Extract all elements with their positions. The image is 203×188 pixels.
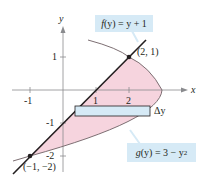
label-g-rest: = 3 − y	[152, 147, 183, 158]
point-neg1-neg2	[28, 154, 33, 159]
x-tick-2: 2	[126, 96, 131, 106]
y-tick-1: 1	[52, 52, 57, 62]
leader-f	[132, 31, 138, 42]
y-tick-neg2: -2	[46, 151, 54, 161]
leader-g	[130, 130, 140, 144]
point-label-neg1-neg2: (−1, −2)	[23, 162, 56, 172]
x-axis-label: x	[191, 85, 195, 95]
label-f-rest: = y + 1	[116, 18, 147, 29]
label-g-arg: (y)	[141, 147, 153, 158]
x-axis-arrow-icon	[181, 88, 188, 93]
label-g-exponent: 2	[184, 149, 188, 157]
delta-y-label: Δy	[154, 106, 165, 116]
point-2-1	[127, 55, 132, 60]
label-f: f(y) = y + 1	[95, 15, 153, 32]
x-tick-neg1: -1	[24, 96, 32, 106]
y-axis-arrow-icon	[61, 26, 66, 33]
y-tick-neg1: -1	[46, 118, 54, 128]
point-label-2-1: (2, 1)	[137, 47, 159, 57]
y-axis-label: y	[59, 14, 63, 24]
label-g: g(y) = 3 − y2	[127, 143, 196, 162]
x-tick-1: 1	[93, 96, 98, 106]
label-f-arg: (y)	[104, 18, 116, 29]
representative-rectangle	[75, 106, 150, 116]
